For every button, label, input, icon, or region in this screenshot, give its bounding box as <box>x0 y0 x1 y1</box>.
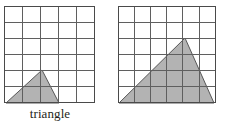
caption-image: image <box>223 106 225 121</box>
grid-image-svg <box>118 6 217 104</box>
caption-triangle: triangle <box>0 106 100 121</box>
grid-triangle <box>4 6 96 104</box>
figure-container: triangle <box>0 0 225 129</box>
grid-triangle-svg <box>4 6 96 104</box>
panel-triangle: triangle <box>0 0 110 129</box>
grid-image <box>118 6 217 104</box>
panel-image: image <box>110 0 225 129</box>
